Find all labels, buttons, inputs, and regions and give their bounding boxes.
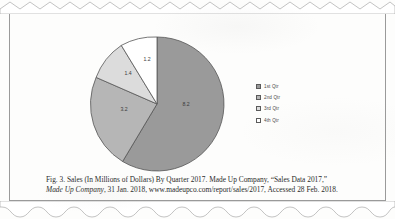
legend-item-2nd-qtr: 2nd Qtr [256, 92, 316, 103]
scanned-page: 8.2 3.2 1.4 1.2 1st Qtr 2nd Qtr 3rd Qtr … [0, 0, 395, 219]
legend-label-2nd-qtr: 2nd Qtr [264, 95, 280, 100]
caption-source-title: Made Up Company [46, 185, 104, 194]
legend-label-3rd-qtr: 3rd Qtr [264, 106, 279, 111]
legend-item-3rd-qtr: 3rd Qtr [256, 103, 316, 114]
legend-swatch-2nd-qtr [256, 95, 261, 100]
chart-legend: 1st Qtr 2nd Qtr 3rd Qtr 4th Qtr [256, 81, 316, 126]
pie-label-1st-qtr: 8.2 [182, 101, 189, 107]
torn-paper-edge-bottom [0, 201, 395, 219]
pie-label-4th-qtr: 1.2 [143, 56, 150, 62]
caption-line-1: Fig. 3. Sales (In Millions of Dollars) B… [46, 175, 356, 185]
pie-label-2nd-qtr: 3.2 [120, 106, 127, 112]
torn-paper-edge-top [0, 0, 395, 14]
pie-svg: 8.2 3.2 1.4 1.2 [85, 32, 229, 176]
legend-label-4th-qtr: 4th Qtr [264, 118, 279, 123]
legend-item-4th-qtr: 4th Qtr [256, 115, 316, 126]
legend-label-1st-qtr: 1st Qtr [264, 84, 279, 89]
pie-chart: 8.2 3.2 1.4 1.2 1st Qtr 2nd Qtr 3rd Qtr … [9, 14, 386, 174]
legend-swatch-1st-qtr [256, 84, 261, 89]
legend-swatch-3rd-qtr [256, 106, 261, 111]
pie-graphic: 8.2 3.2 1.4 1.2 [85, 32, 229, 176]
caption-line-2: Made Up Company, 31 Jan. 2018, www.madeu… [46, 185, 356, 195]
figure-caption: Fig. 3. Sales (In Millions of Dollars) B… [46, 175, 356, 196]
legend-swatch-4th-qtr [256, 118, 261, 123]
caption-source-rest: , 31 Jan. 2018, www.madeupco.com/report/… [104, 185, 338, 194]
pie-label-3rd-qtr: 1.4 [124, 70, 131, 76]
legend-item-1st-qtr: 1st Qtr [256, 81, 316, 92]
